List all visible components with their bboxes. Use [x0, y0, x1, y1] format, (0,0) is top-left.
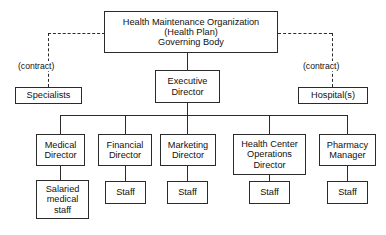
node-pharmacy-manager[interactable]: Pharmacy Manager: [319, 134, 376, 166]
contract-connector-specialists-vertical: [48, 33, 49, 87]
connector-directors-bus: [60, 115, 348, 116]
connector-bus-to-marketing-director: [187, 115, 188, 134]
node-staff-marketing[interactable]: Staff: [167, 181, 208, 204]
node-governing-body[interactable]: Health Maintenance Organization (Health …: [104, 11, 278, 53]
node-specialists[interactable]: Specialists: [15, 87, 82, 104]
node-marketing-director-label: Marketing Director: [166, 140, 210, 161]
contract-label-right: (contract): [302, 61, 340, 71]
node-executive-director-label: Executive Director: [166, 76, 210, 97]
node-staff-health-center[interactable]: Staff: [249, 181, 290, 204]
node-health-center-operations-director[interactable]: Health Center Operations Director: [233, 134, 306, 175]
node-salaried-medical-staff[interactable]: Salaried medical staff: [36, 180, 89, 219]
org-chart-canvas: (contract) (contract) Health Maintenance…: [0, 0, 386, 235]
node-staff-pharmacy-label: Staff: [336, 187, 359, 197]
node-staff-marketing-label: Staff: [176, 187, 199, 197]
connector-medical-director-to-staff: [60, 166, 61, 180]
node-salaried-medical-staff-label: Salaried medical staff: [44, 184, 82, 215]
node-medical-director[interactable]: Medical Director: [36, 134, 85, 166]
node-medical-director-label: Medical Director: [42, 140, 78, 161]
node-staff-health-center-label: Staff: [258, 187, 281, 197]
contract-connector-hospitals-horizontal: [278, 33, 332, 34]
node-pharmacy-manager-label: Pharmacy Manager: [325, 140, 370, 161]
node-executive-director[interactable]: Executive Director: [155, 70, 220, 103]
connector-financial-director-to-staff: [125, 166, 126, 181]
contract-label-left: (contract): [17, 61, 55, 71]
node-governing-body-label: Health Maintenance Organization (Health …: [121, 17, 261, 48]
node-marketing-director[interactable]: Marketing Director: [160, 134, 216, 166]
connector-marketing-director-to-staff: [187, 166, 188, 181]
connector-exec-to-bus: [187, 103, 188, 115]
connector-governing-to-exec: [187, 53, 188, 70]
node-financial-director[interactable]: Financial Director: [98, 134, 152, 166]
node-staff-pharmacy[interactable]: Staff: [327, 181, 368, 204]
node-staff-financial[interactable]: Staff: [105, 181, 146, 204]
connector-bus-to-financial-director: [125, 115, 126, 134]
node-financial-director-label: Financial Director: [105, 140, 146, 161]
connector-bus-to-pharmacy-manager: [347, 115, 348, 134]
node-hospitals-label: Hospital(s): [309, 90, 357, 100]
connector-bus-to-medical-director: [60, 115, 61, 134]
node-staff-financial-label: Staff: [114, 187, 137, 197]
connector-pharmacy-manager-to-staff: [347, 166, 348, 181]
contract-connector-specialists-horizontal: [48, 33, 105, 34]
node-health-center-operations-director-label: Health Center Operations Director: [239, 139, 300, 170]
contract-connector-hospitals-vertical: [332, 33, 333, 87]
connector-bus-to-health-center-director: [269, 115, 270, 134]
node-hospitals[interactable]: Hospital(s): [298, 87, 368, 104]
node-specialists-label: Specialists: [25, 90, 73, 100]
